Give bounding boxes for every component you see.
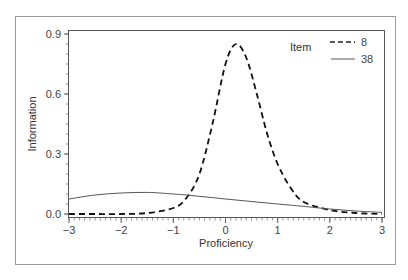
series-line-item-8	[69, 44, 382, 214]
x-tick-label: 0	[222, 224, 228, 236]
series-line-item-38	[69, 192, 382, 212]
series-lines	[69, 44, 382, 214]
x-tick-label: 3	[379, 224, 385, 236]
legend-label-38: 38	[361, 53, 373, 65]
x-axis: −3−2−10123	[63, 218, 385, 237]
legend-title: Item	[290, 41, 311, 53]
x-axis-title: Proficiency	[199, 237, 253, 249]
legend: Item 8 38	[290, 36, 373, 65]
y-axis: 0.00.30.60.9	[46, 28, 69, 220]
x-tick-label: −3	[63, 224, 76, 236]
y-tick-label: 0.9	[46, 28, 61, 40]
information-chart: 0.00.30.60.9 −3−2−10123 Information Prof…	[0, 0, 408, 280]
x-tick-label: −1	[167, 224, 180, 236]
x-tick-label: 2	[327, 224, 333, 236]
y-tick-label: 0.3	[46, 148, 61, 160]
x-tick-label: −2	[115, 224, 128, 236]
x-tick-label: 1	[275, 224, 281, 236]
legend-label-8: 8	[361, 36, 367, 48]
y-tick-label: 0.6	[46, 88, 61, 100]
y-tick-label: 0.0	[46, 208, 61, 220]
y-axis-title: Information	[26, 96, 38, 151]
